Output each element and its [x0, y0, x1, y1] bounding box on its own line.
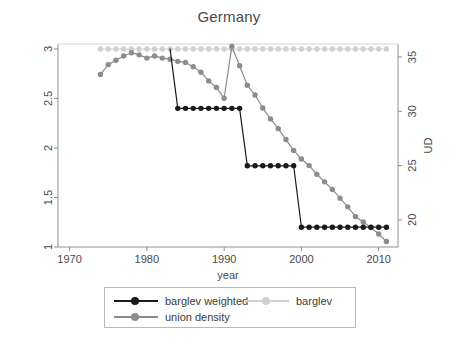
svg-text:1980: 1980 — [135, 253, 159, 265]
svg-text:2000: 2000 — [289, 253, 313, 265]
svg-text:1990: 1990 — [212, 253, 236, 265]
svg-text:20: 20 — [406, 214, 418, 226]
svg-text:3: 3 — [42, 46, 54, 52]
svg-text:1970: 1970 — [57, 253, 81, 265]
legend-marker-swatch — [131, 313, 139, 321]
legend-label-union-density: union density — [165, 311, 230, 323]
svg-text:2010: 2010 — [366, 253, 390, 265]
svg-text:35: 35 — [406, 51, 418, 63]
svg-text:1: 1 — [42, 244, 54, 250]
legend-entry-union-density: union density — [114, 309, 230, 325]
svg-text:2: 2 — [42, 145, 54, 151]
legend-entry-barglev-weighted: barglev weighted — [114, 293, 248, 309]
chart-legend: barglev weighted union density barglev — [104, 287, 356, 328]
legend-key-union-density — [114, 311, 158, 323]
legend-entry-barglev: barglev — [245, 293, 332, 309]
chart-figure: Germany 11.522.5320253035UD1970198019902… — [0, 0, 458, 343]
axes-group: 11.522.5320253035UD19701980199020002010y… — [42, 44, 434, 281]
series-group — [98, 43, 389, 244]
legend-marker-swatch — [262, 297, 270, 305]
svg-text:2.5: 2.5 — [42, 91, 54, 106]
legend-key-barglev-weighted — [114, 295, 158, 307]
svg-text:30: 30 — [406, 105, 418, 117]
svg-text:25: 25 — [406, 159, 418, 171]
svg-text:1.5: 1.5 — [42, 190, 54, 205]
legend-label-barglev: barglev — [296, 295, 332, 307]
legend-label-barglev-weighted: barglev weighted — [165, 295, 248, 307]
legend-marker-swatch — [131, 297, 139, 305]
legend-key-barglev — [245, 295, 289, 307]
svg-text:UD: UD — [422, 138, 434, 154]
svg-text:year: year — [217, 269, 239, 281]
